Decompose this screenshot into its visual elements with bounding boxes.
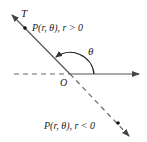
label-point-negative: P(r, θ), r < 0	[43, 120, 95, 132]
point-positive-r	[23, 26, 27, 30]
polar-diagram: T P(r, θ), r > 0 θ O P(r, θ), r < 0	[0, 0, 147, 142]
label-terminal-side: T	[21, 7, 28, 19]
label-point-positive: P(r, θ), r > 0	[31, 22, 83, 34]
label-angle-theta: θ	[88, 45, 94, 57]
label-origin: O	[60, 77, 67, 88]
point-negative-r	[116, 121, 120, 125]
